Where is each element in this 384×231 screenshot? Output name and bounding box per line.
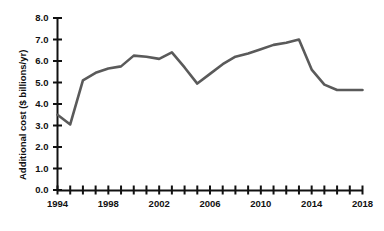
y-tick-label: 3.0 xyxy=(35,120,48,131)
y-tick-label: 6.0 xyxy=(35,55,48,66)
x-axis-tick-labels: 1994199820022006201020142018 xyxy=(47,198,373,209)
line-chart-canvas: 0.01.02.03.04.05.06.07.08.0 199419982002… xyxy=(0,0,384,231)
y-axis-title: Additional cost ($ billions/yr) xyxy=(17,50,28,180)
y-tick-label: 1.0 xyxy=(35,163,48,174)
y-tick-label: 2.0 xyxy=(35,141,48,152)
x-tick-label: 2018 xyxy=(352,198,373,209)
x-tick-label: 1998 xyxy=(98,198,119,209)
x-tick-label: 2010 xyxy=(250,198,271,209)
data-series-group xyxy=(58,40,363,125)
y-tick-label: 0.0 xyxy=(35,184,48,195)
x-tick-label: 2006 xyxy=(199,198,220,209)
y-tick-label: 5.0 xyxy=(35,77,48,88)
x-tick-label: 2014 xyxy=(301,198,323,209)
chart-axes xyxy=(57,18,363,191)
series-line-additional-cost xyxy=(58,40,363,125)
y-axis-tick-labels: 0.01.02.03.04.05.06.07.08.0 xyxy=(35,12,48,195)
y-tick-label: 8.0 xyxy=(35,12,48,23)
x-tick-label: 2002 xyxy=(149,198,170,209)
y-tick-label: 4.0 xyxy=(35,98,48,109)
x-tick-label: 1994 xyxy=(47,198,69,209)
chart-figure: 0.01.02.03.04.05.06.07.08.0 199419982002… xyxy=(0,0,384,231)
y-tick-label: 7.0 xyxy=(35,34,48,45)
